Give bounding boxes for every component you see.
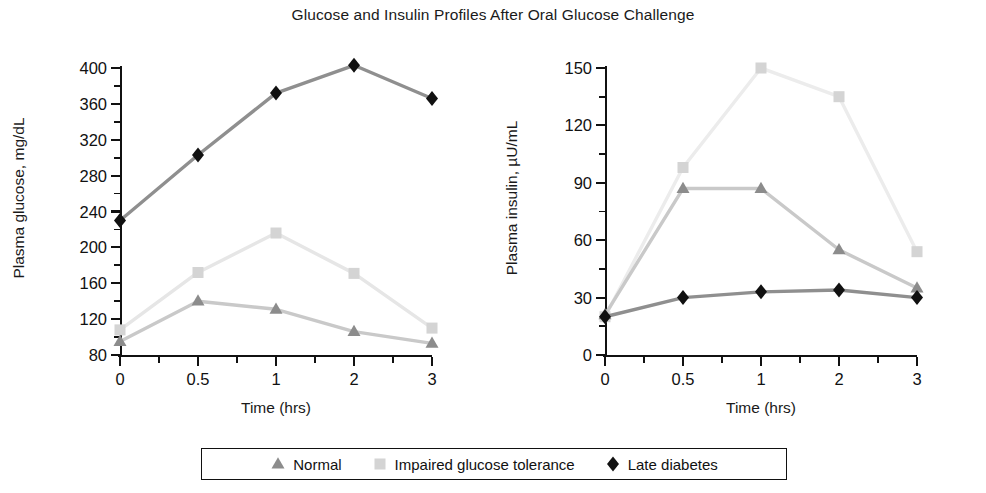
x-tick-label: 0: [600, 370, 609, 389]
x-axis-label-glucose: Time (hrs): [120, 399, 432, 417]
diamond-marker: [348, 58, 360, 73]
x-minor-tick: [314, 357, 316, 363]
y-tick-label: 30: [574, 288, 592, 307]
y-tick-label: 240: [79, 202, 107, 221]
y-tick-label: 120: [564, 116, 592, 135]
y-tick-0-1: [111, 318, 120, 320]
x-minor-tick: [877, 357, 879, 363]
panel-glucose: Plasma glucose, mg/dL Time (hrs) 8012016…: [0, 48, 500, 438]
y-tick-0-3: [111, 246, 120, 248]
y-tick-label: 60: [574, 231, 592, 250]
y-axis-label-glucose-text: Plasma glucose, mg/dL: [10, 117, 28, 278]
square-marker: [349, 268, 360, 279]
legend-label: Normal: [293, 456, 341, 473]
panel-insulin: Plasma insulin, µU/mL Time (hrs) 0306090…: [493, 48, 986, 438]
diamond-icon: [605, 456, 621, 472]
y-tick-label: 90: [574, 173, 592, 192]
diamond-marker: [677, 290, 689, 305]
y-tick-label: 200: [79, 238, 107, 257]
x-minor-tick: [799, 357, 801, 363]
plot-area-glucose: Time (hrs) 8012016020024028032036040000.…: [120, 68, 432, 355]
diamond-marker: [607, 457, 619, 472]
y-tick-1-4: [596, 124, 605, 126]
series-group-glucose: [120, 68, 432, 355]
x-tick-0-3: [353, 357, 355, 366]
y-tick-label: 280: [79, 166, 107, 185]
x-tick-1-1: [682, 357, 684, 366]
y-tick-1-3: [596, 182, 605, 184]
y-axis-label-glucose: Plasma glucose, mg/dL: [6, 48, 32, 348]
triangle-icon: [270, 456, 286, 472]
x-axis-label-insulin: Time (hrs): [605, 399, 917, 417]
x-tick-0-1: [197, 357, 199, 366]
x-minor-tick: [392, 357, 394, 363]
y-tick-label: 120: [79, 310, 107, 329]
x-tick-label: 1: [756, 370, 765, 389]
x-tick-1-0: [604, 357, 606, 366]
x-tick-label: 0: [115, 370, 124, 389]
y-tick-0-5: [111, 175, 120, 177]
square-marker: [115, 324, 126, 335]
square-marker: [756, 63, 767, 74]
y-tick-1-2: [596, 239, 605, 241]
legend-item-normal[interactable]: Normal: [270, 456, 341, 473]
diamond-marker: [833, 282, 845, 297]
y-tick-0-8: [111, 67, 120, 69]
y-tick-label: 400: [79, 59, 107, 78]
square-marker: [374, 459, 385, 470]
x-tick-0-0: [119, 357, 121, 366]
legend-item-late-diabetes[interactable]: Late diabetes: [605, 456, 718, 473]
x-minor-tick: [158, 357, 160, 363]
triangle-marker: [272, 457, 285, 468]
series-late-diabetes: [599, 282, 923, 324]
x-minor-tick: [643, 357, 645, 363]
page-title: Glucose and Insulin Profiles After Oral …: [0, 6, 986, 24]
y-axis-label-insulin-text: Plasma insulin, µU/mL: [503, 121, 521, 276]
diamond-marker: [755, 284, 767, 299]
y-tick-label: 360: [79, 94, 107, 113]
square-marker: [427, 323, 438, 334]
y-tick-0-7: [111, 103, 120, 105]
square-marker: [834, 91, 845, 102]
y-tick-0-0: [111, 354, 120, 356]
series-normal: [114, 294, 439, 347]
diamond-marker: [426, 91, 438, 106]
x-tick-1-3: [838, 357, 840, 366]
x-minor-tick: [236, 357, 238, 363]
series-group-insulin: [605, 68, 917, 355]
y-tick-1-5: [596, 67, 605, 69]
y-tick-1-0: [596, 354, 605, 356]
plot-area-insulin: Time (hrs) 030609012015000.5123: [605, 68, 917, 355]
x-tick-label: 2: [834, 370, 843, 389]
square-marker: [912, 246, 923, 257]
x-tick-label: 1: [271, 370, 280, 389]
x-tick-0-4: [431, 357, 433, 366]
x-tick-label: 3: [427, 370, 436, 389]
x-tick-label: 3: [912, 370, 921, 389]
square-marker: [271, 228, 282, 239]
x-tick-label: 0.5: [187, 370, 210, 389]
series-line: [120, 233, 432, 330]
y-tick-label: 160: [79, 274, 107, 293]
series-late-diabetes: [114, 58, 438, 228]
square-icon: [372, 456, 388, 472]
legend-label: Late diabetes: [628, 456, 718, 473]
square-marker: [193, 267, 204, 278]
y-tick-0-4: [111, 210, 120, 212]
y-tick-0-6: [111, 139, 120, 141]
x-tick-0-2: [275, 357, 277, 366]
x-tick-1-4: [916, 357, 918, 366]
y-tick-label: 0: [583, 346, 592, 365]
x-tick-1-2: [760, 357, 762, 366]
x-tick-label: 2: [349, 370, 358, 389]
y-tick-label: 320: [79, 130, 107, 149]
legend-item-impaired-glucose-tolerance[interactable]: Impaired glucose tolerance: [372, 456, 575, 473]
legend: NormalImpaired glucose toleranceLate dia…: [201, 448, 787, 480]
y-tick-label: 150: [564, 59, 592, 78]
x-minor-tick: [721, 357, 723, 363]
square-marker: [678, 162, 689, 173]
chart-page: Glucose and Insulin Profiles After Oral …: [0, 0, 986, 493]
y-tick-0-2: [111, 282, 120, 284]
y-tick-1-1: [596, 297, 605, 299]
legend-label: Impaired glucose tolerance: [395, 456, 575, 473]
